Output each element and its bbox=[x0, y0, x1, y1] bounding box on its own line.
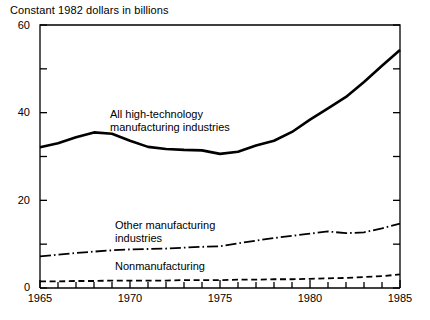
series-line-0 bbox=[40, 50, 400, 154]
series-line-1 bbox=[40, 224, 400, 257]
plot-area bbox=[0, 0, 430, 320]
axis-ticks bbox=[40, 25, 400, 288]
chart-figure: Constant 1982 dollars in billions 60 40 … bbox=[0, 0, 430, 320]
data-series-group bbox=[40, 50, 400, 281]
axes-frame bbox=[40, 25, 400, 288]
